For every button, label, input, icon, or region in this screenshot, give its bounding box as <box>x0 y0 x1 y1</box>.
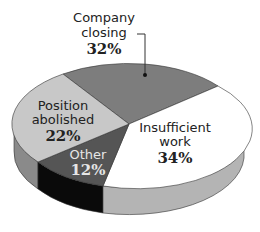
leader-dot-company-closing <box>143 73 147 77</box>
label-company-closing-value: 32% <box>86 40 121 58</box>
pie-chart: Company closing 32% Position abolished 2… <box>0 0 260 232</box>
label-insufficient-work-value: 34% <box>157 149 192 167</box>
label-insufficient-work-line2: work <box>159 134 191 149</box>
label-company-closing-line2: closing <box>81 25 127 40</box>
label-insufficient-work-line1: Insufficient <box>139 120 211 135</box>
label-other-line1: Other <box>70 147 108 162</box>
label-company-closing-line1: Company <box>73 10 135 25</box>
label-position-abolished-line1: Position <box>38 98 89 113</box>
label-other-value: 12% <box>70 161 105 179</box>
label-position-abolished-line2: abolished <box>32 112 95 127</box>
label-position-abolished-value: 22% <box>45 127 80 145</box>
